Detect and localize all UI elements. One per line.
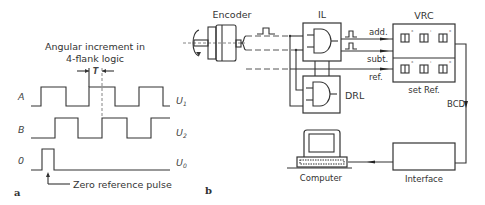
encoder-icon	[183, 25, 246, 61]
computer-icon	[287, 130, 352, 168]
angular-increment-title-line1: Angular increment in	[45, 41, 145, 52]
signal-b-output: U2	[176, 127, 187, 139]
figure-canvas: Angular increment in 4-flank logic T A U…	[0, 0, 485, 205]
period-label: T	[93, 67, 99, 76]
display-digits-top: ° ' "	[401, 29, 451, 42]
il-label: IL	[318, 9, 327, 20]
subt-label: subt.	[367, 54, 388, 64]
svg-text:': '	[430, 60, 431, 66]
and-gate-icon	[306, 82, 337, 106]
add-label: add.	[369, 27, 388, 37]
zero-reference-annotation: Zero reference pulse	[46, 172, 172, 190]
angular-increment-title-line2: 4-flank logic	[66, 53, 124, 64]
pulse-symbol	[257, 28, 275, 34]
computer-label: Computer	[300, 173, 343, 183]
signal-zero-label: 0	[18, 155, 24, 166]
svg-text:': '	[430, 29, 431, 35]
signal-a-waveform	[31, 87, 170, 106]
ref-label: ref.	[369, 72, 383, 82]
encoder-label: Encoder	[213, 9, 252, 20]
drl-label: DRL	[345, 90, 365, 101]
zero-reference-label: Zero reference pulse	[73, 179, 172, 190]
svg-text:": "	[449, 60, 451, 66]
svg-text:": "	[449, 29, 451, 35]
interface-label: Interface	[405, 174, 443, 184]
signal-b-waveform	[31, 118, 170, 138]
period-marker: T	[77, 67, 114, 118]
signal-a-label: A	[17, 91, 25, 102]
signal-b-label: B	[18, 124, 25, 135]
and-gate-icon	[307, 29, 338, 53]
display-digits-bottom: ° ' "	[401, 60, 451, 73]
bcd-label: BCD	[447, 99, 466, 109]
panel-b-block-diagram: Encoder IL	[183, 9, 468, 196]
panel-b-label: b	[205, 185, 212, 196]
set-ref-label: set Ref.	[408, 85, 440, 95]
interface-box	[393, 143, 455, 170]
signal-a-output: U1	[176, 95, 187, 107]
vrc-label: VRC	[414, 10, 434, 21]
signal-zero-waveform	[31, 149, 170, 170]
panel-a-label: a	[14, 187, 21, 198]
svg-text:°: °	[411, 29, 414, 35]
svg-text:°: °	[411, 60, 414, 66]
panel-a-timing-diagram: Angular increment in 4-flank logic T A U…	[14, 41, 187, 198]
signal-zero-output: U0	[176, 157, 187, 169]
